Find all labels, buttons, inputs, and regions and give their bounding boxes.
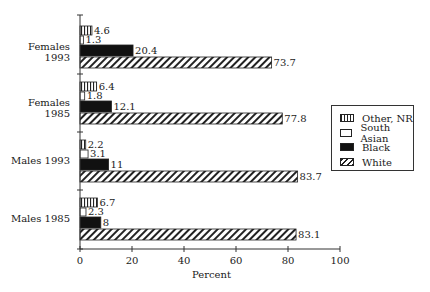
category-label: Females 1993 [0, 41, 70, 63]
bar-white [80, 171, 298, 182]
legend-label: Black [362, 142, 390, 153]
bar-other-nr [80, 140, 86, 149]
bar-white [80, 57, 272, 68]
diagonal-hatch-swatch-icon [340, 158, 354, 166]
x-tick-label: 80 [273, 255, 303, 266]
x-tick-label: 40 [169, 255, 199, 266]
category-label: Females 1985 [0, 97, 70, 119]
value-label: 8 [103, 218, 109, 228]
bar-south-asian [80, 150, 88, 158]
value-label: 11 [111, 160, 124, 170]
legend-item-white: White [340, 157, 392, 167]
value-label: 73.7 [274, 58, 296, 68]
x-tick-label: 20 [117, 255, 147, 266]
legend: Other, NR South Asian Black White [331, 105, 414, 171]
value-label: 1.8 [87, 91, 103, 101]
bar-south-asian [80, 36, 83, 44]
x-tick-label: 60 [221, 255, 251, 266]
value-label: 12.1 [113, 102, 135, 112]
value-label: 2.3 [88, 207, 104, 217]
solid-swatch-icon [340, 143, 354, 151]
bar-black [80, 101, 111, 112]
bar-black [80, 217, 101, 228]
bar-south-asian [80, 208, 86, 216]
bar-south-asian [80, 92, 85, 100]
bar-chart: Females 19934.61.320.473.7Females 19856.… [0, 0, 430, 292]
empty-swatch-icon [340, 129, 352, 137]
x-tick-label: 0 [65, 255, 95, 266]
bar-black [80, 45, 133, 56]
bar-white [80, 113, 282, 124]
x-tick-label: 100 [325, 255, 355, 266]
legend-item-south-asian: South Asian [340, 128, 413, 138]
category-label: Males 1993 [0, 155, 70, 166]
category-label: Males 1985 [0, 213, 70, 224]
legend-label: White [362, 157, 392, 168]
bar-white [80, 229, 296, 240]
x-axis-title: Percent [192, 269, 231, 280]
bars-group [80, 26, 298, 240]
value-label: 83.7 [300, 172, 322, 182]
value-label: 1.3 [85, 35, 101, 45]
legend-item-black: Black [340, 142, 390, 152]
value-label: 3.1 [90, 149, 106, 159]
vertical-hatch-swatch-icon [340, 114, 354, 122]
value-label: 83.1 [298, 230, 320, 240]
value-label: 77.8 [284, 114, 306, 124]
value-label: 20.4 [135, 46, 157, 56]
bar-black [80, 159, 109, 170]
